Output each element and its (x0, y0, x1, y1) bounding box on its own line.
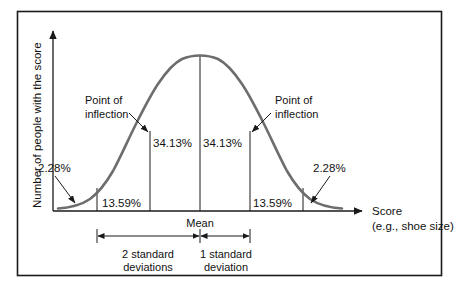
percent-label-left-outer: 13.59% (102, 197, 141, 209)
inflection-left-line1: Point of (85, 94, 123, 106)
normal-distribution-chart: 2.28% 13.59% 34.13% 34.13% 13.59% 2.28% … (0, 0, 459, 297)
percent-label-right-inner: 34.13% (203, 137, 242, 149)
bracket-2sd-line1: 2 standard (122, 248, 174, 260)
x-axis-label-sub: (e.g., shoe size) (372, 220, 454, 232)
percent-label-right-outer: 13.59% (253, 197, 292, 209)
bracket-1sd-line1: 1 standard (200, 248, 252, 260)
mean-label: Mean (186, 217, 214, 229)
percent-label-right-tail: 2.28% (313, 162, 346, 174)
bracket-1sd-line2: deviation (204, 261, 248, 273)
figure-container: 2.28% 13.59% 34.13% 34.13% 13.59% 2.28% … (0, 0, 459, 297)
inflection-right-line2: inflection (275, 108, 318, 120)
percent-label-left-inner: 34.13% (153, 137, 192, 149)
y-axis-label: Number of people with the score (31, 42, 43, 208)
bracket-2sd-line2: deviations (123, 261, 173, 273)
inflection-right-line1: Point of (275, 94, 313, 106)
x-axis-label: Score (372, 205, 402, 217)
inflection-left-line2: inflection (85, 108, 128, 120)
